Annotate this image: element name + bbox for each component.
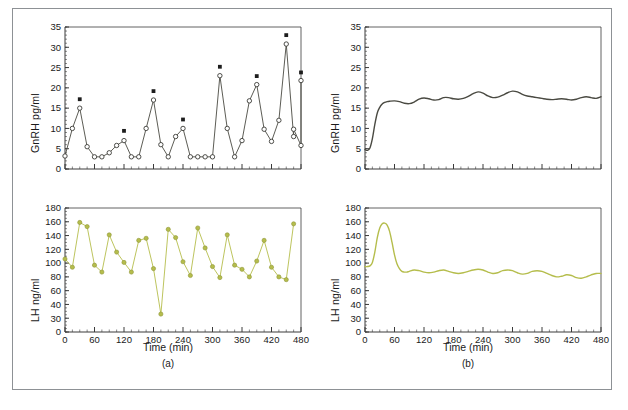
gnrh-model-plot: 05101520253035 [313,9,613,194]
svg-text:100: 100 [345,257,361,268]
svg-text:25: 25 [50,62,61,73]
y-axis-title-lh-b: LH ng/ml [329,222,341,322]
panel-b-lh-chart: LH ng/ml 0304060801001201401601800601201… [313,194,613,391]
svg-text:20: 20 [50,82,61,93]
svg-text:35: 35 [50,21,61,32]
svg-text:15: 15 [350,102,361,113]
svg-text:100: 100 [45,257,61,268]
svg-text:180: 180 [345,202,361,213]
svg-text:140: 140 [345,230,361,241]
svg-text:0: 0 [56,326,61,337]
svg-text:60: 60 [50,285,61,296]
svg-text:0: 0 [356,326,361,337]
svg-text:40: 40 [350,299,361,310]
svg-text:30: 30 [50,313,61,324]
lh-model-plot: 0304060801001201401601800601201802403003… [313,194,613,359]
svg-text:10: 10 [350,123,361,134]
svg-text:0: 0 [62,334,67,345]
svg-text:40: 40 [50,299,61,310]
svg-text:160: 160 [45,216,61,227]
svg-text:0: 0 [362,334,367,345]
svg-text:120: 120 [345,244,361,255]
panel-a-lh-chart: LH ng/ml 0304060801001201401601800601201… [13,194,313,391]
svg-text:0: 0 [56,163,61,174]
svg-text:30: 30 [350,313,361,324]
svg-text:20: 20 [350,82,361,93]
svg-text:180: 180 [45,202,61,213]
y-axis-title-gnrh-b: GnRH pg/ml [329,43,341,153]
svg-text:60: 60 [350,285,361,296]
svg-text:30: 30 [50,42,61,53]
figure-frame: GnRH pg/ml 05101520253035 LH ng/ml 03040… [12,8,612,390]
panel-letter-b: (b) [438,358,498,369]
panel-a-gnrh-chart: GnRH pg/ml 05101520253035 [13,9,313,194]
svg-text:140: 140 [45,230,61,241]
gnrh-experimental-plot: 05101520253035 [13,9,313,194]
x-axis-title-a: Time (min) [68,341,268,353]
svg-text:120: 120 [45,244,61,255]
svg-text:15: 15 [50,102,61,113]
y-axis-title-lh-a: LH ng/ml [29,222,41,322]
svg-text:35: 35 [350,21,361,32]
svg-text:80: 80 [350,271,361,282]
lh-experimental-plot: 0304060801001201401601800601201802403003… [13,194,313,359]
panel-b-gnrh-chart: GnRH pg/ml 05101520253035 [313,9,613,194]
svg-text:25: 25 [350,62,361,73]
svg-text:80: 80 [50,271,61,282]
panel-letter-a: (a) [138,358,198,369]
svg-text:0: 0 [356,163,361,174]
x-axis-title-b: Time (min) [368,341,568,353]
svg-text:5: 5 [356,143,361,154]
svg-text:10: 10 [50,123,61,134]
svg-text:480: 480 [293,334,309,345]
svg-text:160: 160 [345,216,361,227]
svg-text:30: 30 [350,42,361,53]
svg-text:480: 480 [593,334,609,345]
y-axis-title-gnrh-a: GnRH pg/ml [29,43,41,153]
svg-text:5: 5 [56,143,61,154]
